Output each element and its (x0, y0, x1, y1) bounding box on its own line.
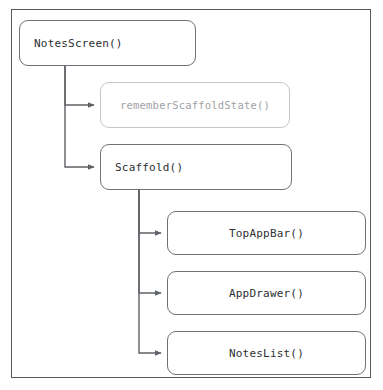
node-label-top-app-bar: TopAppBar() (168, 227, 365, 240)
diagram-canvas: NotesScreen() rememberScaffoldState() Sc… (0, 0, 383, 390)
connector-scaffold-to-top-app-bar (139, 190, 161, 233)
node-top-app-bar[interactable]: TopAppBar() (167, 211, 366, 255)
node-label-notes-screen: NotesScreen() (20, 37, 123, 50)
connector-notes-screen-to-remember-scaffold-state (65, 66, 94, 105)
node-label-app-drawer: AppDrawer() (168, 287, 365, 300)
node-app-drawer[interactable]: AppDrawer() (167, 271, 366, 315)
connector-notes-screen-to-scaffold (65, 66, 94, 167)
connector-scaffold-to-notes-list (139, 190, 161, 353)
node-label-notes-list: NotesList() (168, 347, 365, 360)
node-notes-list[interactable]: NotesList() (167, 331, 366, 375)
node-label-remember-scaffold-state: rememberScaffoldState() (101, 99, 289, 111)
node-notes-screen[interactable]: NotesScreen() (19, 20, 196, 66)
connector-scaffold-to-app-drawer (139, 190, 161, 293)
node-scaffold[interactable]: Scaffold() (100, 144, 292, 190)
node-label-scaffold: Scaffold() (101, 161, 183, 174)
node-remember-scaffold-state[interactable]: rememberScaffoldState() (100, 82, 290, 128)
